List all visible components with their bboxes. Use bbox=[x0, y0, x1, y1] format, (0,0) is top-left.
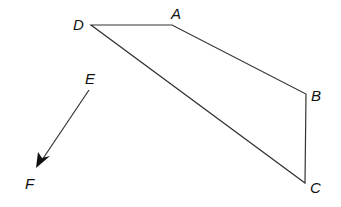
label-b: B bbox=[311, 87, 321, 104]
quadrilateral-dabc bbox=[91, 25, 306, 183]
label-f: F bbox=[25, 175, 35, 192]
geometry-diagram: D A B C E F bbox=[0, 0, 341, 207]
arrowhead-icon bbox=[36, 152, 50, 168]
label-e: E bbox=[85, 70, 96, 87]
label-c: C bbox=[310, 179, 321, 196]
label-a: A bbox=[170, 5, 181, 22]
label-d: D bbox=[73, 16, 84, 33]
vector-ef-shaft bbox=[42, 90, 89, 160]
